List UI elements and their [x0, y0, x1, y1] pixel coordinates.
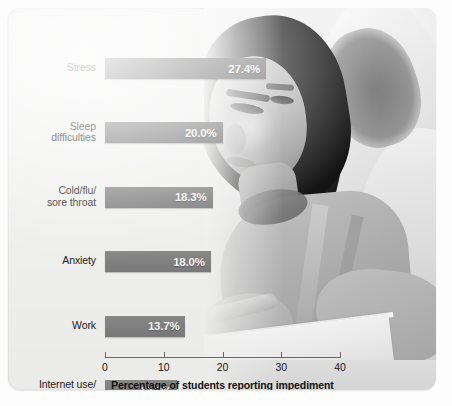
bar-value-label: 20.0%: [185, 127, 217, 139]
bar-category-label-line: Stress: [8, 62, 96, 74]
x-axis-line: [105, 357, 341, 358]
x-axis-tick-label: 0: [90, 361, 120, 373]
x-axis-tick-label: 20: [208, 361, 238, 373]
x-axis-tick: [281, 352, 282, 357]
bar-category-label: Stress: [8, 62, 96, 74]
bar-category-label-line: Work: [8, 320, 96, 332]
bar: 18.0%: [105, 251, 211, 272]
bar: 27.4%: [105, 58, 266, 79]
bar-value-label: 27.4%: [228, 63, 260, 75]
x-axis-tick: [105, 352, 106, 357]
x-axis-tick-label: 40: [325, 361, 355, 373]
x-axis-tick: [340, 352, 341, 357]
x-axis-title: Percentage of students reporting impedim…: [111, 379, 334, 390]
bar-value-label: 13.7%: [148, 320, 180, 332]
bar-category-label: Cold/flu/sore throat: [8, 185, 96, 208]
bar-category-label-line: difficulties: [8, 132, 96, 144]
figure-root: Stress27.4%Sleepdifficulties20.0%Cold/fl…: [0, 0, 452, 406]
bar-category-label-line: sore throat: [8, 197, 96, 209]
bar: 20.0%: [105, 122, 223, 143]
bar-category-label: Work: [8, 320, 96, 332]
x-axis-tick-label: 10: [149, 361, 179, 373]
figure-card: Stress27.4%Sleepdifficulties20.0%Cold/fl…: [8, 8, 436, 390]
x-axis-tick-label: 30: [266, 361, 296, 373]
x-axis-tick: [164, 352, 165, 357]
bar-category-label: Anxiety: [8, 255, 96, 267]
x-axis-tick: [223, 352, 224, 357]
bar-value-label: 18.0%: [173, 256, 205, 268]
bar-category-label-line: Anxiety: [8, 255, 96, 267]
bar-category-label: Sleepdifficulties: [8, 121, 96, 144]
bar: 13.7%: [105, 316, 185, 337]
bar-chart-plot: Stress27.4%Sleepdifficulties20.0%Cold/fl…: [8, 8, 436, 390]
bar: 18.3%: [105, 187, 213, 208]
bar-category-label: Internet use/computer games: [8, 379, 96, 391]
bar-value-label: 18.3%: [175, 191, 207, 203]
